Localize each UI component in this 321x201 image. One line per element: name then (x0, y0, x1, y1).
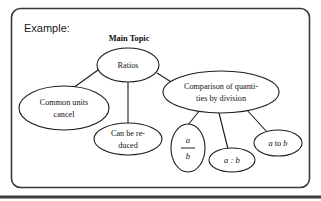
main-topic-heading: Main Topic (109, 34, 150, 43)
node-common-units-cancel-line1: Common units (40, 98, 88, 107)
node-can-be-reduced-line2: duced (118, 141, 138, 150)
bottom-edge-rule (0, 196, 321, 199)
node-can-be-reduced[interactable]: Can be re- duced (94, 123, 162, 155)
concept-map-diagram: Example: Main Topic Ratios Common units … (0, 0, 321, 201)
node-a-to-b[interactable]: a to b (254, 130, 302, 156)
node-common-units-cancel[interactable]: Common units cancel (19, 86, 109, 130)
node-comparison-by-division[interactable]: Comparison of quanti- ties by division (163, 71, 279, 113)
node-colon-ratio[interactable]: a : b (209, 148, 255, 172)
node-fraction-numerator: a (186, 135, 190, 145)
example-label: Example: (24, 22, 70, 34)
node-a-to-b-label: a to b (268, 139, 287, 148)
node-fraction-a-over-b[interactable]: a b (171, 124, 205, 172)
node-ratios[interactable]: Ratios (97, 48, 159, 82)
node-fraction-denominator: b (186, 151, 191, 161)
node-comparison-by-division-line2: ties by division (196, 94, 246, 103)
node-can-be-reduced-line1: Can be re- (111, 129, 145, 138)
example-card: Example: Main Topic Ratios Common units … (0, 0, 321, 201)
node-ratios-label: Ratios (118, 61, 139, 70)
node-a-to-b-middle: to (273, 139, 284, 148)
node-common-units-cancel-shape (19, 86, 109, 130)
node-can-be-reduced-shape (94, 123, 162, 155)
node-comparison-by-division-shape (163, 71, 279, 113)
node-comparison-by-division-line1: Comparison of quanti- (184, 82, 258, 91)
node-colon-ratio-label: a : b (224, 155, 240, 165)
node-common-units-cancel-line2: cancel (54, 110, 76, 119)
node-a-to-b-suffix: b (283, 139, 287, 148)
